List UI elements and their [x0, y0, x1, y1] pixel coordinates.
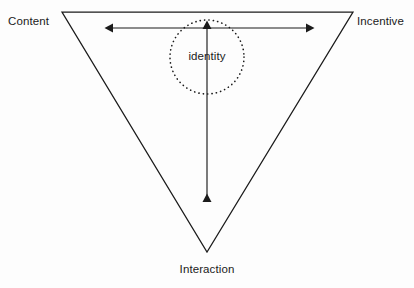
vertex-label-content: Content [8, 15, 49, 27]
vertex-label-incentive: Incentive [357, 15, 404, 27]
vertex-label-interaction: Interaction [0, 263, 414, 275]
center-node-label-identity: identity [0, 50, 414, 62]
diagram-graphics [0, 0, 414, 288]
diagram-canvas: Content Incentive Interaction identity [0, 0, 414, 288]
